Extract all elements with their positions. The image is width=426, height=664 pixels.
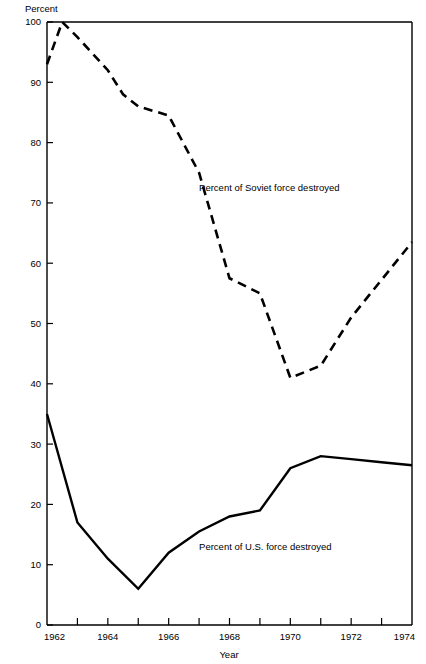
x-axis-ticks: 1962196419661968197019721974: [44, 618, 415, 642]
y-tick-label: 20: [30, 499, 41, 510]
series-line-us: [47, 414, 412, 589]
y-axis-ticks: 0102030405060708090100: [25, 16, 53, 630]
y-tick-label: 100: [25, 16, 41, 27]
y-axis-title: Percent: [25, 3, 58, 14]
x-tick-label: 1972: [341, 631, 362, 642]
x-tick-label: 1964: [97, 631, 118, 642]
x-tick-label: 1968: [219, 631, 240, 642]
chart-figure: 0102030405060708090100 19621964196619681…: [0, 0, 426, 664]
x-axis-title: Year: [219, 649, 238, 660]
line-chart-svg: 0102030405060708090100 19621964196619681…: [0, 0, 426, 664]
y-tick-label: 60: [30, 258, 41, 269]
series-label-soviet: Percent of Soviet force destroyed: [199, 182, 339, 193]
y-tick-label: 50: [30, 318, 41, 329]
y-tick-label: 90: [30, 77, 41, 88]
y-tick-label: 0: [36, 619, 41, 630]
plot-frame: [47, 22, 412, 625]
series-line-soviet: [47, 22, 412, 378]
x-tick-label: 1970: [280, 631, 301, 642]
data-series: [47, 22, 412, 589]
y-tick-label: 10: [30, 559, 41, 570]
y-tick-label: 40: [30, 378, 41, 389]
x-tick-label: 1974: [394, 631, 415, 642]
y-tick-label: 70: [30, 197, 41, 208]
y-tick-label: 30: [30, 439, 41, 450]
x-tick-label: 1962: [44, 631, 65, 642]
y-tick-label: 80: [30, 137, 41, 148]
x-tick-label: 1966: [158, 631, 179, 642]
series-label-us: Percent of U.S. force destroyed: [199, 541, 332, 552]
